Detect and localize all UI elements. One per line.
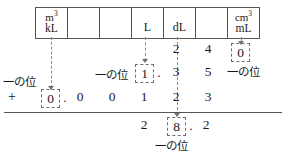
unit-cell-kL-exponent: 3 (54, 9, 58, 18)
row3-label-ones-place: 一の位 (3, 73, 36, 89)
row3-digit-1: 0 (72, 89, 88, 105)
row2-label-ones-place: 一の位 (95, 66, 128, 82)
row4-boxed-digit-dL-value: 8 (168, 118, 185, 135)
unit-cell-empty-3-label (196, 19, 227, 28)
guide-line-kL (51, 37, 52, 88)
row3-decimal-point: . (61, 90, 69, 106)
row2-digit-cL: 5 (200, 64, 216, 80)
callout-boxed-digit-mL-value: 0 (232, 44, 249, 61)
row3-boxed-digit-kL-value: 0 (42, 90, 59, 107)
row1-digit-dL: 2 (168, 41, 184, 57)
row3-digit-2: 0 (104, 89, 120, 105)
row2-boxed-digit-L: 1 (135, 64, 154, 83)
row2-boxed-digit-L-value: 1 (136, 65, 153, 82)
row4-label-ones-place: 一の位 (155, 137, 188, 153)
unit-cell-L-label: L (132, 12, 163, 33)
unit-cell-mL-exponent: 3 (248, 9, 252, 18)
unit-cell-empty-2-label (100, 19, 131, 28)
row2-digit-dL: 3 (168, 64, 184, 80)
place-value-addition-worksheet: m3 kL L dL cm3 mL (0, 0, 290, 156)
row3-digit-4: 2 (168, 89, 184, 105)
unit-cell-dL-label: dL (164, 12, 195, 33)
unit-header-row: m3 kL L dL cm3 mL (36, 8, 260, 39)
unit-cell-mL-bottom: mL (228, 23, 259, 35)
unit-cell-mL: cm3 mL (228, 8, 260, 39)
sum-horizontal-rule (4, 112, 282, 113)
row3-digit-3: 1 (136, 89, 152, 105)
row4-digit-L: 2 (136, 117, 152, 133)
unit-header-table: m3 kL L dL cm3 mL (35, 7, 260, 39)
row4-digit-cL: 2 (198, 117, 214, 133)
guide-line-L (145, 37, 146, 61)
unit-cell-kL-bottom: kL (36, 23, 67, 35)
row3-boxed-digit-kL: 0 (41, 89, 60, 108)
unit-cell-dL: dL (164, 8, 196, 39)
row2-decimal-point: . (155, 65, 163, 81)
unit-cell-L: L (132, 8, 164, 39)
unit-cell-kL: m3 kL (36, 8, 68, 39)
unit-cell-empty-1-label (68, 19, 99, 28)
callout-boxed-digit-mL: 0 (231, 43, 250, 62)
unit-cell-empty-2 (100, 8, 132, 39)
callout-label-mL: 一の位 (227, 63, 260, 79)
unit-cell-empty-3 (196, 8, 228, 39)
row3-digit-5: 3 (200, 89, 216, 105)
row1-digit-cL: 4 (200, 41, 216, 57)
guide-caret-L (142, 59, 148, 63)
row4-boxed-digit-dL: 8 (167, 117, 186, 136)
row3-operator-plus: + (8, 89, 16, 105)
unit-cell-empty-1 (68, 8, 100, 39)
row4-decimal-point: . (187, 118, 195, 134)
